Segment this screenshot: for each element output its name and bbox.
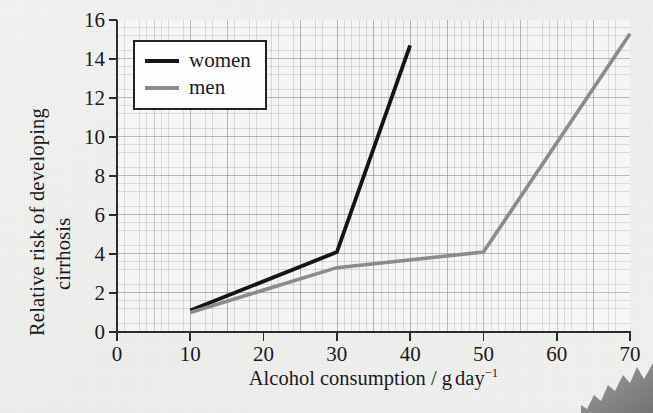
plot-area: 0246810121416 010203040506070 women men	[117, 20, 630, 332]
x-tick-20	[263, 333, 265, 341]
y-tick-label-16: 16	[84, 8, 105, 33]
x-axis-title: Alcohol consumption / gday−1	[117, 366, 630, 390]
y-tick-label-10: 10	[84, 125, 105, 150]
y-tick-label-8: 8	[95, 164, 106, 189]
y-tick-4	[109, 253, 117, 255]
y-tick-label-4: 4	[95, 242, 106, 267]
x-tick-label-0: 0	[112, 342, 123, 367]
y-tick-label-14: 14	[84, 47, 105, 72]
y-tick-10	[109, 136, 117, 138]
legend-label-women: women	[189, 50, 251, 71]
x-tick-label-70: 70	[620, 342, 641, 367]
x-tick-60	[556, 333, 558, 341]
x-tick-10	[189, 333, 191, 341]
y-tick-2	[109, 292, 117, 294]
legend-entry-men: men	[145, 74, 251, 101]
x-tick-70	[629, 333, 631, 341]
y-tick-label-6: 6	[95, 203, 106, 228]
y-tick-6	[109, 214, 117, 216]
figure-graph-paper-chart: Relative risk of developing cirrhosis 02…	[0, 0, 653, 413]
y-tick-14	[109, 58, 117, 60]
x-tick-label-30: 30	[326, 342, 347, 367]
y-axis-title-line-2: cirrhosis	[52, 218, 75, 290]
x-tick-label-20: 20	[253, 342, 274, 367]
x-tick-label-10: 10	[180, 342, 201, 367]
x-tick-40	[409, 333, 411, 341]
y-tick-16	[109, 19, 117, 21]
x-axis-title-unit: day	[452, 367, 485, 389]
y-axis-title-line-1: Relative risk of developing	[26, 108, 49, 336]
x-tick-50	[483, 333, 485, 341]
x-axis-title-prefix: Alcohol consumption / g	[249, 367, 452, 389]
y-tick-label-0: 0	[95, 320, 106, 345]
x-tick-label-60: 60	[546, 342, 567, 367]
legend: women men	[133, 40, 267, 110]
y-tick-8	[109, 175, 117, 177]
y-tick-12	[109, 97, 117, 99]
y-tick-label-2: 2	[95, 281, 106, 306]
x-tick-30	[336, 333, 338, 341]
legend-entry-women: women	[145, 47, 251, 74]
x-tick-label-50: 50	[473, 342, 494, 367]
y-tick-label-12: 12	[84, 86, 105, 111]
legend-swatch-women	[145, 59, 179, 63]
x-tick-0	[116, 333, 118, 341]
legend-label-men: men	[189, 77, 225, 98]
legend-swatch-men	[145, 86, 179, 90]
x-axis-title-exponent: −1	[485, 366, 499, 380]
x-tick-label-40: 40	[400, 342, 421, 367]
